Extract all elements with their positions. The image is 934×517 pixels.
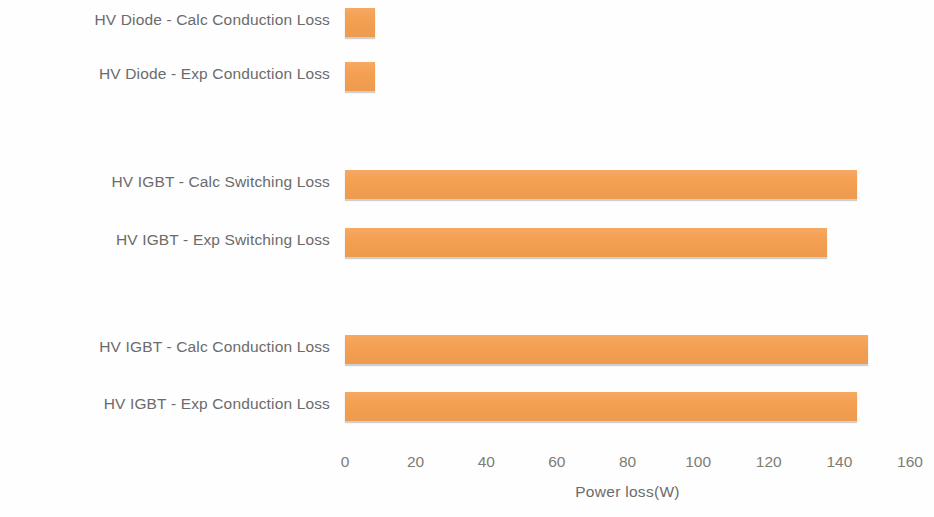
bar-chart: HV Diode - Calc Conduction Loss HV Diode… [0,0,934,517]
bar-hv-igbt-exp-switching-loss [345,228,827,257]
category-label-hv-igbt-exp-conduction-loss: HV IGBT - Exp Conduction Loss [104,395,330,413]
x-axis-title: Power loss(W) [345,483,910,501]
category-label-hv-igbt-calc-conduction-loss: HV IGBT - Calc Conduction Loss [99,338,330,356]
x-tick-label-140: 140 [826,452,852,472]
x-tick-label-40: 40 [478,452,495,472]
x-tick-label-100: 100 [685,452,711,472]
x-tick-label-160: 160 [897,452,923,472]
bar-hv-igbt-calc-switching-loss [345,170,857,199]
category-label-hv-igbt-exp-switching-loss: HV IGBT - Exp Switching Loss [116,231,330,249]
category-label-hv-igbt-calc-switching-loss: HV IGBT - Calc Switching Loss [111,173,330,191]
bar-hv-igbt-exp-conduction-loss [345,392,857,421]
category-label-hv-diode-calc-conduction-loss: HV Diode - Calc Conduction Loss [94,11,330,29]
bar-hv-igbt-calc-conduction-loss [345,335,868,364]
bar-hv-diode-exp-conduction-loss [345,62,375,91]
x-tick-label-60: 60 [548,452,565,472]
x-tick-label-120: 120 [756,452,782,472]
x-axis-tick-row: 020406080100120140160 [0,452,934,474]
x-tick-label-20: 20 [407,452,424,472]
x-tick-label-80: 80 [619,452,636,472]
category-label-hv-diode-exp-conduction-loss: HV Diode - Exp Conduction Loss [99,65,330,83]
bar-hv-diode-calc-conduction-loss [345,8,375,37]
x-tick-label-0: 0 [341,452,350,472]
